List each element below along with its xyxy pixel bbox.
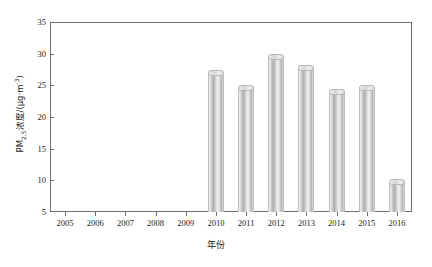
pm25-bar-chart: 5101520253035 20052006200720082009201020… [0, 0, 432, 267]
x-tick-mark [156, 212, 157, 216]
x-tick-label: 2005 [57, 219, 74, 228]
x-tick-mark [306, 212, 307, 216]
x-axis-ticks: 2005200620072008200920102011201220132014… [0, 0, 432, 267]
x-tick-label: 2013 [298, 219, 315, 228]
x-tick-mark [367, 212, 368, 216]
x-tick-label: 2016 [388, 219, 405, 228]
x-tick-label: 2015 [358, 219, 375, 228]
x-tick-label: 2009 [177, 219, 194, 228]
x-tick-mark [125, 212, 126, 216]
x-axis-title: 年份 [0, 238, 432, 251]
x-tick-label: 2007 [117, 219, 134, 228]
x-tick-mark [246, 212, 247, 216]
x-tick-mark [65, 212, 66, 216]
x-tick-label: 2006 [87, 219, 104, 228]
x-tick-mark [276, 212, 277, 216]
x-tick-label: 2011 [238, 219, 255, 228]
x-tick-label: 2014 [328, 219, 345, 228]
x-tick-mark [95, 212, 96, 216]
x-tick-label: 2010 [207, 219, 224, 228]
x-tick-label: 2012 [268, 219, 285, 228]
x-tick-mark [216, 212, 217, 216]
x-tick-label: 2008 [147, 219, 164, 228]
x-tick-mark [337, 212, 338, 216]
x-tick-mark [397, 212, 398, 216]
y-axis-title: PM2.5浓度/(μg·m-3) [13, 14, 27, 214]
x-tick-mark [186, 212, 187, 216]
